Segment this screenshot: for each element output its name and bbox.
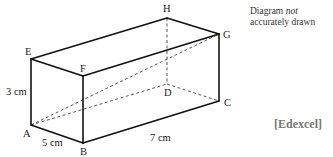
vertex-label-C: C	[224, 97, 231, 108]
source-label: [Edexcel]	[274, 117, 322, 132]
vertex-label-G: G	[223, 29, 231, 40]
vertex-label-D: D	[164, 87, 172, 98]
accuracy-note: Diagram not accurately drawn	[250, 6, 315, 28]
vertex-label-E: E	[25, 46, 31, 57]
vertex-label-B: B	[80, 146, 87, 157]
edge-GH	[167, 18, 219, 34]
vertex-label-H: H	[163, 3, 171, 14]
edge-DC	[167, 84, 219, 101]
edge-EF	[31, 59, 83, 76]
diagonal-AG	[31, 34, 219, 125]
dimension-width: 5 cm	[42, 137, 63, 148]
note-line2: accurately drawn	[250, 17, 315, 27]
vertex-label-A: A	[23, 128, 31, 139]
note-emphasis: not	[286, 6, 298, 16]
dimension-length: 7 cm	[150, 132, 171, 143]
dimension-height: 3 cm	[6, 86, 27, 97]
edge-HE	[31, 18, 167, 59]
edge-FG	[83, 34, 219, 76]
vertex-label-F: F	[80, 63, 86, 74]
visible-edges	[31, 18, 219, 143]
note-line1-prefix: Diagram	[250, 6, 286, 16]
edge-AD	[31, 84, 167, 125]
vertex-labels: A B C D E F G H	[23, 3, 231, 157]
